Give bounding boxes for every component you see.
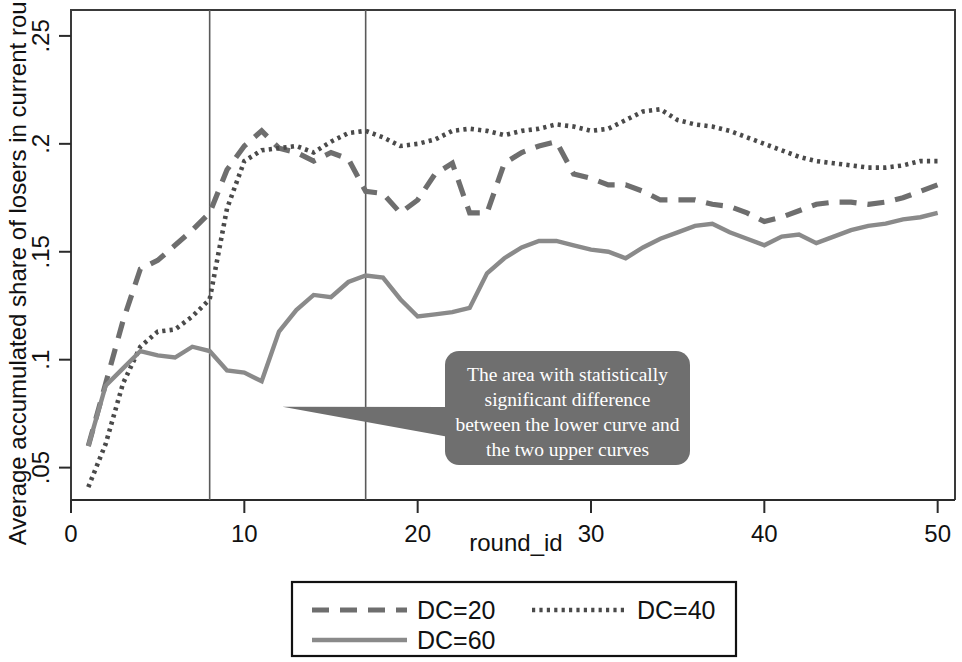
legend-label: DC=40	[637, 596, 716, 624]
chart-figure: .05.1.15.2.25 01020304050 The area with …	[0, 0, 962, 662]
callout-text-line: The area with statistically	[467, 364, 668, 385]
legend-label: DC=60	[417, 626, 496, 654]
y-tick-label: .05	[27, 451, 54, 484]
x-tick-label: 0	[64, 520, 77, 547]
x-tick-label: 20	[404, 520, 431, 547]
y-tick-label: .25	[27, 19, 54, 52]
callout-text-line: the two upper curves	[486, 439, 649, 460]
callout-text-line: significant difference	[485, 389, 651, 410]
x-tick-label: 50	[924, 520, 951, 547]
figure-background	[0, 0, 962, 662]
line-chart-svg: .05.1.15.2.25 01020304050 The area with …	[0, 0, 962, 662]
chart-legend: DC=20DC=40DC=60	[292, 582, 736, 656]
y-tick-label: .1	[27, 350, 54, 370]
x-tick-label: 40	[751, 520, 778, 547]
legend-label: DC=20	[417, 596, 496, 624]
y-axis-title: Average accumulated share of losers in c…	[4, 0, 31, 545]
y-tick-label: .15	[27, 235, 54, 268]
x-axis-title: round_id	[469, 529, 562, 556]
x-tick-label: 30	[578, 520, 605, 547]
x-tick-label: 10	[231, 520, 258, 547]
y-tick-label: .2	[27, 134, 54, 154]
callout-text-line: between the lower curve and	[455, 414, 679, 435]
